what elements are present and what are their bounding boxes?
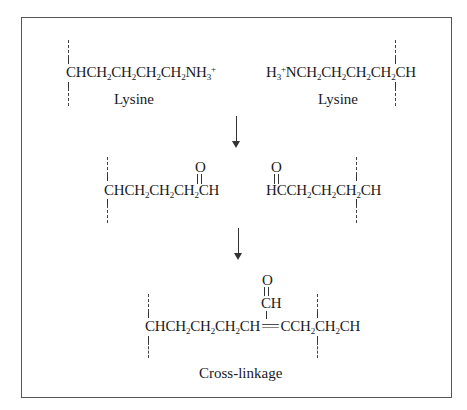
arrow-shaft xyxy=(238,228,239,254)
crosslinkage-label: Cross-linkage xyxy=(199,366,282,381)
backbone-bond-top xyxy=(356,175,357,181)
aldehyde-right-formula: HCCH2CH2CH2CH xyxy=(266,183,381,198)
backbone-bond-top xyxy=(317,312,318,318)
crosslink-carbonyl-o: O xyxy=(262,273,273,288)
backbone-dash-bottom xyxy=(68,88,69,106)
backbone-dash-top xyxy=(395,40,396,58)
aldehyde-left-formula: CHCH2CH2CH2CH xyxy=(104,183,219,198)
backbone-dash-bottom xyxy=(107,205,108,223)
reaction-arrow-2 xyxy=(234,228,244,260)
lysine-left-formula: CHCH2CH2CH2CH2NH3+ xyxy=(66,65,216,80)
crosslink-formula: CHCH2CH2CH2CH=CCH2CH2CH xyxy=(145,319,360,334)
arrow-head xyxy=(232,141,240,148)
backbone-bond-top xyxy=(107,175,108,181)
double-bond-symbol: = xyxy=(260,319,280,334)
arrow-shaft xyxy=(236,116,237,142)
arrow-head xyxy=(234,253,242,260)
reaction-arrow-1 xyxy=(232,116,242,148)
aldehyde-left-carbonyl-o: O xyxy=(195,160,206,175)
backbone-dash-bottom xyxy=(317,342,318,358)
backbone-dash-bottom xyxy=(148,342,149,358)
backbone-dash-top xyxy=(356,157,357,175)
crosslink-branch-ch: CH xyxy=(261,296,281,311)
backbone-dash-top xyxy=(317,294,318,312)
backbone-dash-bottom xyxy=(395,88,396,106)
backbone-bond-top xyxy=(395,58,396,64)
backbone-dash-bottom xyxy=(356,205,357,223)
backbone-dash-top xyxy=(107,157,108,175)
lysine-right-label: Lysine xyxy=(318,92,358,107)
backbone-dash-top xyxy=(68,40,69,58)
aldehyde-right-carbonyl-o: O xyxy=(271,160,282,175)
lysine-right-formula: H3+NCH2CH2CH2CH2CH xyxy=(266,65,416,80)
lysine-left-label: Lysine xyxy=(114,92,154,107)
backbone-dash-top xyxy=(148,294,149,312)
